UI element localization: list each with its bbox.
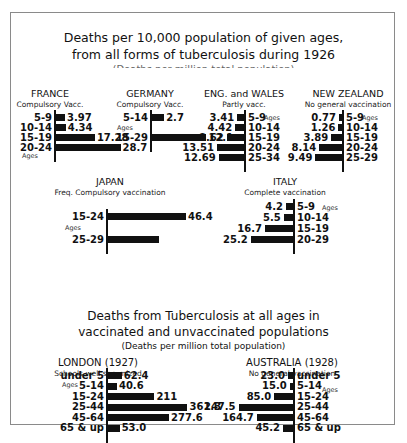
ages-axis-label: Ages [322, 204, 338, 212]
value-label: 1.26 [311, 123, 336, 133]
value-label: 211 [156, 392, 177, 402]
category-label: 45-64 [72, 413, 104, 423]
bar [217, 144, 244, 151]
ages-axis-label: Ages [65, 224, 81, 232]
bar [108, 236, 159, 243]
value-label: 277.6 [171, 413, 203, 423]
value-label: 23.0 [260, 371, 285, 381]
category-label: under 5 [60, 371, 104, 381]
bar [274, 393, 293, 400]
chart-subtitle: Freq. Compulsory vaccination [40, 188, 180, 197]
bar [235, 124, 244, 131]
bar [227, 134, 244, 141]
category-label: 5-14 [79, 381, 104, 391]
value-label: 40.6 [119, 381, 144, 391]
value-label: 9.49 [288, 153, 313, 163]
category-label: 15-19 [346, 133, 378, 143]
value-label: 4.42 [207, 123, 232, 133]
bar [108, 213, 186, 220]
value-label: 4.34 [68, 123, 93, 133]
value-label: 164.7 [222, 413, 254, 423]
ages-axis-label: Ages [362, 114, 378, 122]
axis-line [293, 199, 295, 254]
axis-line [244, 110, 246, 172]
category-label: 15-19 [248, 133, 280, 143]
bar [286, 203, 293, 210]
bar [315, 154, 342, 161]
category-label: 10-14 [248, 123, 280, 133]
bar [283, 425, 293, 432]
category-label: 5-9 [34, 113, 52, 123]
bar [56, 134, 95, 141]
bar [152, 114, 164, 121]
bar [219, 154, 244, 161]
value-label: 2.7 [166, 113, 184, 123]
category-label: 20-29 [297, 235, 329, 245]
section2-subtitle: (Deaths per million total population) [0, 340, 407, 352]
category-label: 5-9 [297, 202, 315, 212]
category-label: 5-14 [297, 381, 322, 391]
bar [284, 214, 293, 221]
section1-title-line1: Deaths per 10,000 population of given ag… [0, 30, 407, 46]
value-label: 46.4 [188, 212, 213, 222]
value-label: 3.89 [303, 133, 328, 143]
category-label: 20-24 [248, 143, 280, 153]
category-label: 25-34 [248, 153, 280, 163]
value-label: 8.62 [199, 133, 224, 143]
category-label: 20-24 [20, 143, 52, 153]
value-label: 13.51 [182, 143, 214, 153]
bar [339, 114, 342, 121]
bar [56, 144, 121, 151]
bar [108, 404, 187, 411]
value-label: 5.5 [263, 213, 281, 223]
bar [108, 383, 117, 390]
chart-title: ITALY [215, 176, 355, 187]
category-label: 20-24 [346, 143, 378, 153]
section1-title-line2: from all forms of tuberculosis during 19… [0, 47, 407, 63]
value-label: 3.97 [67, 113, 92, 123]
category-label: 25-29 [346, 153, 378, 163]
bar [288, 372, 293, 379]
chart-subtitle: Complete vaccination [215, 188, 355, 197]
ages-axis-label: Ages [322, 386, 338, 394]
category-label: 15-24 [72, 212, 104, 222]
bar [319, 144, 342, 151]
category-label: 25-29 [72, 235, 104, 245]
category-label: 10-14 [346, 123, 378, 133]
bar [108, 425, 120, 432]
value-label: 4.2 [265, 202, 283, 212]
bar [108, 393, 154, 400]
bar [108, 414, 169, 421]
axis-line [293, 368, 295, 443]
category-label: 15-24 [72, 392, 104, 402]
category-label: 65 & up [297, 423, 341, 433]
bar [239, 404, 293, 411]
bar [251, 236, 293, 243]
value-label: 12.69 [184, 153, 216, 163]
axis-line [342, 110, 344, 172]
chart-title: AUSTRALIA (1928) [222, 357, 362, 368]
bar [290, 383, 293, 390]
value-label: 8.14 [292, 143, 317, 153]
category-label: 25-44 [297, 402, 329, 412]
chart-subtitle: No general vaccination [278, 100, 407, 109]
ages-axis-label: Ages [22, 152, 38, 160]
ages-axis-label: Ages [264, 114, 280, 122]
category-label: 10-14 [20, 123, 52, 133]
section1-clipped-subtitle: (Deaths per million total population) [0, 64, 407, 68]
section2-title-line2: vaccinated and unvaccinated populations [0, 324, 407, 340]
category-label: 45-64 [297, 413, 329, 423]
bar [108, 372, 122, 379]
value-label: 16.7 [237, 224, 262, 234]
category-label: 5-14 [123, 113, 148, 123]
value-label: 85.0 [247, 392, 272, 402]
category-label: under 5 [297, 371, 341, 381]
section2-title-line1: Deaths from Tuberculosis at all ages in [0, 308, 407, 324]
category-label: 25-44 [72, 402, 104, 412]
value-label: 25.2 [223, 235, 248, 245]
chart-title: NEW ZEALAND [278, 88, 407, 99]
category-label: 15-19 [20, 133, 52, 143]
category-label: 15-19 [297, 224, 329, 234]
ages-axis-label: Ages [62, 381, 78, 389]
value-label: 15.0 [262, 381, 287, 391]
